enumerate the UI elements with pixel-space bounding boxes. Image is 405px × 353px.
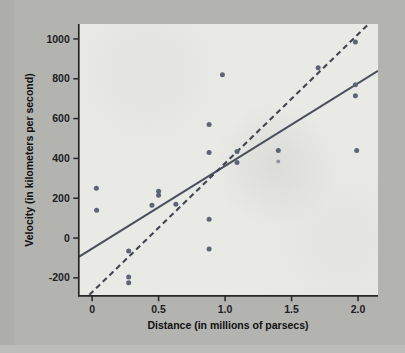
data-point: [94, 186, 99, 191]
y-tick-label: 200: [52, 192, 70, 204]
data-point: [126, 248, 131, 253]
y-axis-title: Velocity (in kilometers per second): [23, 73, 35, 246]
data-point: [316, 65, 321, 70]
chart-svg: -20002004006008001000 00.51.01.52.0 Dist…: [0, 0, 405, 353]
data-point: [353, 93, 358, 98]
data-point: [207, 150, 212, 155]
data-point: [353, 39, 358, 44]
data-point: [353, 82, 358, 87]
data-point: [173, 202, 178, 207]
data-point: [276, 159, 280, 163]
y-tick-label: 1000: [46, 33, 70, 45]
x-tick-label: 1.5: [284, 303, 299, 315]
data-point: [126, 274, 131, 279]
x-tick-label: 2.0: [351, 303, 366, 315]
y-tick-label: -200: [49, 271, 70, 283]
data-point: [354, 148, 359, 153]
dashed-fit-line: [89, 24, 368, 295]
solid-fit-line: [79, 71, 378, 257]
data-point: [94, 208, 99, 213]
fit-lines-layer: [79, 24, 378, 295]
data-point: [207, 217, 212, 222]
x-axis-ticks: 00.51.01.52.0: [89, 296, 365, 315]
data-point: [235, 160, 240, 165]
x-tick-label: 0.5: [151, 303, 166, 315]
x-tick-label: 1.0: [218, 303, 233, 315]
y-tick-label: 0: [64, 232, 70, 244]
y-tick-label: 600: [52, 112, 70, 124]
data-point: [149, 203, 154, 208]
data-point: [235, 149, 240, 154]
y-tick-label: 400: [52, 152, 70, 164]
data-point: [156, 193, 161, 198]
y-tick-label: 800: [52, 72, 70, 84]
figure-container: -20002004006008001000 00.51.01.52.0 Dist…: [0, 0, 405, 353]
x-axis-title: Distance (in millions of parsecs): [147, 319, 308, 331]
data-point: [276, 148, 281, 153]
data-point: [207, 122, 212, 127]
y-axis-ticks: -20002004006008001000: [46, 33, 78, 284]
data-point: [220, 72, 225, 77]
data-point: [126, 280, 131, 285]
data-point: [207, 247, 212, 252]
x-tick-label: 0: [89, 303, 95, 315]
